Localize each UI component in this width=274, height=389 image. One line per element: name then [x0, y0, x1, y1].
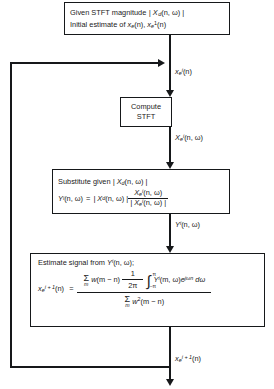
feedback-loop-bottom-segment [10, 366, 170, 368]
substitute-magnitude-args: (n, ω) | [105, 194, 128, 203]
substitute-equation: Yi(n, ω) = | Xd(n, ω) | Xei(n, ω) | Xei(… [53, 189, 229, 207]
substitute-header-text: Substitute given [58, 177, 113, 186]
integral-upper-limit: π [152, 272, 156, 277]
given-line2-x1-args: (n), [134, 20, 147, 29]
estimate-header-args: (n, ω); [113, 258, 134, 267]
integral-lower-limit: −π [149, 284, 156, 289]
edge-label-xe-i-args: (n) [183, 67, 192, 76]
estimate-lhs-args: (n) [55, 284, 64, 293]
substitute-den-args: (n, ω) | [143, 198, 166, 207]
compute-line-2: STFT [121, 112, 171, 122]
node-estimate-signal: Estimate signal from Yi(n, ω); xei + 1(n… [30, 253, 265, 327]
substitute-den-X: | X [130, 198, 139, 207]
edge-label-Xe-i-args: (n, ω) [184, 133, 203, 142]
node-substitute-given: Substitute given | Xd(n, ω) | Yi(n, ω) =… [52, 169, 230, 214]
flowchart-diagram: Given STFT magnitude | Xd(n, ω) | Initia… [0, 0, 274, 389]
edge-label-Y-i: Yi(n, ω) [175, 221, 200, 228]
edge-label-Xe-i: Xei(n, ω) [175, 134, 203, 141]
substitute-magnitude-open: | X [93, 194, 102, 203]
estimate-header: Estimate signal from Yi(n, ω); [31, 254, 264, 267]
edge-label-Y-i-args: (n, ω) [181, 220, 200, 229]
edge-given-to-compute [169, 35, 171, 90]
estimate-num-w-args: (m − n) [96, 275, 120, 284]
edge-substitute-to-estimate [169, 214, 171, 246]
arrowhead-down-icon [166, 246, 174, 253]
node-compute-stft: Compute STFT [120, 97, 172, 127]
edge-compute-to-substitute [169, 127, 171, 162]
substitute-fraction: Xei(n, ω) | Xei(n, ω) | [128, 189, 168, 207]
one-over-twopi-numerator: 1 [122, 270, 143, 279]
estimate-big-fraction: Σ m w(m − n) 1 2π ∫ π −π Yi(m, ω)ejωn dω [77, 270, 211, 308]
edge-label-xe-i1-args: (n) [192, 354, 201, 363]
edge-label-xe-i-plus-1: xei + 1(n) [175, 355, 201, 362]
edge-label-xe-i: xei(n) [175, 68, 192, 75]
given-line-2: Initial estimate of xe(n), xe1(n) [65, 19, 229, 30]
estimate-num-exponent: jωn [185, 275, 193, 281]
substitute-header-args: (n, ω) | [125, 177, 148, 186]
given-line1-args: (n, ω) | [161, 8, 184, 17]
estimate-denominator: Σ m w2(m − n) [77, 292, 211, 308]
estimate-num-domega: dω [195, 275, 205, 284]
substitute-header-magnitude-open: | X [113, 177, 122, 186]
given-line1-magnitude-open: | X [148, 8, 158, 17]
estimate-formula-lhs: xei + 1(n) = [38, 284, 73, 293]
summation-index: m [83, 282, 89, 287]
substitute-num-args: (n, ω) [143, 188, 162, 197]
estimate-den-w-args: (m − n) [141, 296, 165, 305]
feedback-loop-top-segment [10, 62, 162, 64]
feedback-loop-left-segment [10, 62, 12, 368]
estimate-numerator: Σ m w(m − n) 1 2π ∫ π −π Yi(m, ω)ejωn dω [77, 270, 211, 292]
substitute-lhs-args: (n, ω) [64, 194, 83, 203]
substitute-fraction-denominator: | Xei(n, ω) | [128, 198, 168, 207]
edge-estimate-output [169, 327, 171, 382]
given-line2-x2-args: (n) [157, 20, 166, 29]
given-line1-text: Given STFT magnitude [70, 8, 146, 17]
arrowhead-down-icon [166, 90, 174, 97]
estimate-lhs-superscript: i + 1 [45, 284, 55, 290]
estimate-num-Y-args: (m, ω) [160, 275, 181, 284]
substitute-equals-sign: = [83, 194, 93, 203]
summation-index: m [125, 303, 131, 308]
integral-icon: ∫ π −π [146, 273, 150, 288]
estimate-header-text: Estimate signal from [38, 258, 107, 267]
estimate-equals-sign: = [66, 284, 73, 293]
edge-label-xe-i1-superscript: i + 1 [182, 354, 192, 360]
arrowhead-down-icon [166, 379, 174, 386]
given-line2-text: Initial estimate of [70, 20, 128, 29]
node-given-stft-magnitude: Given STFT magnitude | Xd(n, ω) | Initia… [64, 2, 230, 35]
substitute-header: Substitute given | Xd(n, ω) | [53, 176, 229, 187]
substitute-fraction-numerator: Xei(n, ω) [128, 189, 168, 197]
given-line-1: Given STFT magnitude | Xd(n, ω) | [65, 7, 229, 18]
compute-line-1: Compute [121, 102, 171, 112]
estimate-one-over-twopi: 1 2π [122, 270, 143, 291]
arrowhead-right-icon [158, 59, 165, 67]
estimate-formula: xei + 1(n) = Σ m w(m − n) 1 2π ∫ [31, 270, 264, 308]
summation-icon: Σ m [83, 274, 89, 287]
one-over-twopi-denominator: 2π [122, 279, 143, 290]
summation-icon: Σ m [125, 295, 131, 308]
arrowhead-down-icon [166, 162, 174, 169]
